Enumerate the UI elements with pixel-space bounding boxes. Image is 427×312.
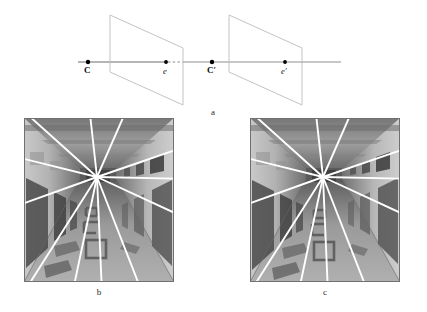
point-camera-center-left <box>86 60 90 64</box>
photo-panel-right <box>250 118 400 282</box>
image-plane-left <box>110 15 183 105</box>
label-camera-center-right: C′ <box>207 66 216 75</box>
epipole-marker-right <box>321 175 324 178</box>
point-epipole-right <box>283 60 287 64</box>
point-camera-center-right <box>210 60 214 64</box>
caption-c: c <box>315 288 335 297</box>
photo-panel-left <box>24 118 174 282</box>
diagram-canvas <box>0 0 427 122</box>
point-epipole-left <box>164 60 168 64</box>
photo-right-canvas <box>250 118 400 282</box>
figure-root: C e C′ e′ a <box>0 0 427 312</box>
epipolar-geometry-diagram: C e C′ e′ <box>0 0 427 122</box>
label-camera-center-left: C <box>84 66 91 75</box>
caption-a: a <box>203 108 223 117</box>
label-epipole-left: e <box>163 67 167 76</box>
label-epipole-right: e′ <box>281 67 287 76</box>
epipole-marker-left <box>95 175 98 178</box>
caption-b: b <box>89 288 109 297</box>
photo-left-canvas <box>24 118 174 282</box>
image-plane-right <box>229 15 302 105</box>
